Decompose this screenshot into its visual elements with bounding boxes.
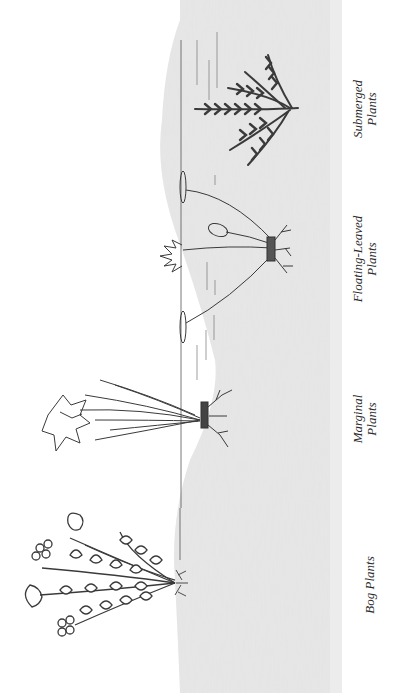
label-submerged-plants: Submerged Plants <box>351 69 379 149</box>
label-bog-plants: Bog Plants <box>363 545 377 625</box>
label-floating-leaved-plants: Floating-Leaved Plants <box>351 204 379 314</box>
pond-zones-illustration <box>0 0 403 693</box>
label-marginal-plants: Marginal Plants <box>351 379 379 459</box>
bog-plant-drawing <box>25 513 188 636</box>
ground-shading <box>160 0 342 693</box>
